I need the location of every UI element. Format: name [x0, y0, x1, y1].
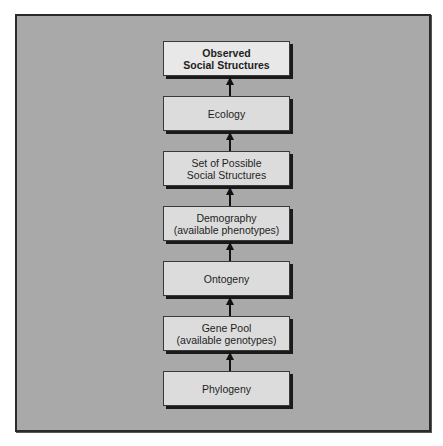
node-label-line: Ontogeny [204, 273, 250, 285]
node-label-line: Demography [196, 212, 256, 224]
node-label-line: Set of Possible [191, 157, 261, 169]
node-label-line: Social Structures [187, 169, 266, 181]
node-demography: Demography (available phenotypes) [163, 206, 290, 241]
node-label-line: Observed [202, 47, 250, 59]
arrow-up-icon [229, 243, 231, 261]
node-ecology: Ecology [163, 96, 290, 131]
node-label-line: (available phenotypes) [174, 224, 280, 236]
node-label-line: Ecology [208, 108, 245, 120]
arrow-up-icon [229, 78, 231, 96]
node-ontogeny: Ontogeny [163, 261, 290, 296]
node-set-of-possible-social-structures: Set of Possible Social Structures [163, 151, 290, 186]
arrow-up-icon [229, 133, 231, 151]
node-label-line: Social Structures [183, 59, 269, 71]
node-label-line: (available genotypes) [177, 334, 277, 346]
node-gene-pool: Gene Pool (available genotypes) [163, 316, 290, 351]
node-label-line: Phylogeny [202, 383, 251, 395]
arrow-up-icon [229, 188, 231, 206]
node-phylogeny: Phylogeny [163, 371, 290, 406]
arrow-up-icon [229, 298, 231, 316]
node-observed-social-structures: Observed Social Structures [163, 41, 290, 76]
node-label-line: Gene Pool [202, 322, 252, 334]
arrow-up-icon [229, 353, 231, 371]
